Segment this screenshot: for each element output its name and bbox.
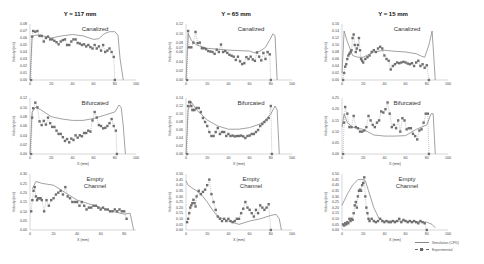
svg-text:0.14: 0.14 xyxy=(332,29,339,33)
svg-text:80: 80 xyxy=(425,156,429,160)
svg-text:40: 40 xyxy=(226,156,230,160)
svg-text:0.05: 0.05 xyxy=(332,141,339,145)
svg-text:0.00: 0.00 xyxy=(20,78,27,82)
svg-text:0: 0 xyxy=(29,82,31,86)
svg-text:20: 20 xyxy=(52,232,56,236)
svg-text:60: 60 xyxy=(248,156,252,160)
svg-text:0.10: 0.10 xyxy=(176,32,183,36)
svg-text:0.50: 0.50 xyxy=(332,172,339,176)
legend-simulation-label: Simulation (CFD) xyxy=(432,241,459,245)
svg-text:0: 0 xyxy=(341,82,343,86)
svg-text:Bifurcated: Bifurcated xyxy=(393,100,420,106)
svg-text:Channel: Channel xyxy=(240,183,262,189)
chart-panel-r1-c0: 0.000.020.040.060.080.100.12020406080100… xyxy=(8,92,148,176)
svg-text:40: 40 xyxy=(70,82,74,86)
svg-text:Velocity (m/s): Velocity (m/s) xyxy=(168,42,172,62)
svg-text:0.40: 0.40 xyxy=(332,183,339,187)
svg-text:0.07: 0.07 xyxy=(20,29,27,33)
svg-text:0.00: 0.00 xyxy=(20,152,27,156)
svg-text:100: 100 xyxy=(289,232,295,236)
svg-text:0.02: 0.02 xyxy=(20,64,27,68)
svg-text:100: 100 xyxy=(445,156,451,160)
svg-text:0.04: 0.04 xyxy=(332,64,339,68)
svg-text:Velocity (m/s): Velocity (m/s) xyxy=(12,116,16,136)
svg-text:40: 40 xyxy=(382,232,386,236)
svg-text:80: 80 xyxy=(425,82,429,86)
svg-text:Velocity (m/s): Velocity (m/s) xyxy=(324,42,328,62)
svg-text:0.12: 0.12 xyxy=(332,36,339,40)
legend-experimental-label: Experimental xyxy=(432,248,452,252)
svg-text:20: 20 xyxy=(49,156,53,160)
svg-text:60: 60 xyxy=(404,232,408,236)
svg-text:0.10: 0.10 xyxy=(20,210,27,214)
svg-text:0.06: 0.06 xyxy=(20,124,27,128)
svg-text:0.06: 0.06 xyxy=(20,36,27,40)
simulation-line-icon xyxy=(415,242,429,243)
svg-text:80: 80 xyxy=(122,232,126,236)
chart-panel-r0-c1: 0.000.020.040.060.070.080.100.1202040608… xyxy=(164,18,304,102)
svg-text:0.08: 0.08 xyxy=(20,22,27,26)
svg-text:0.14: 0.14 xyxy=(176,96,183,100)
svg-text:60: 60 xyxy=(99,232,103,236)
svg-text:40: 40 xyxy=(226,82,230,86)
chart-panel-r2-c1: 0.000.050.100.150.200.250.300.350.400.45… xyxy=(164,168,304,252)
svg-text:0.10: 0.10 xyxy=(332,130,339,134)
svg-text:0: 0 xyxy=(29,156,31,160)
svg-text:0.00: 0.00 xyxy=(176,152,183,156)
svg-text:0.06: 0.06 xyxy=(176,50,183,54)
svg-text:0.00: 0.00 xyxy=(332,78,339,82)
svg-text:40: 40 xyxy=(226,232,230,236)
svg-text:0.03: 0.03 xyxy=(20,57,27,61)
svg-text:100: 100 xyxy=(133,156,139,160)
svg-text:0.10: 0.10 xyxy=(176,112,183,116)
svg-text:Canalized: Canalized xyxy=(394,26,421,32)
svg-text:100: 100 xyxy=(133,82,139,86)
svg-text:0.01: 0.01 xyxy=(20,71,27,75)
svg-text:20: 20 xyxy=(361,156,365,160)
svg-text:80: 80 xyxy=(113,82,117,86)
svg-text:20: 20 xyxy=(205,232,209,236)
svg-text:Canalized: Canalized xyxy=(82,26,109,32)
svg-text:0.00: 0.00 xyxy=(176,228,183,232)
svg-text:0.20: 0.20 xyxy=(176,206,183,210)
svg-text:20: 20 xyxy=(361,232,365,236)
svg-text:Velocity (m/s): Velocity (m/s) xyxy=(12,42,16,62)
svg-text:0.04: 0.04 xyxy=(20,134,27,138)
svg-text:0.02: 0.02 xyxy=(176,144,183,148)
svg-text:0.10: 0.10 xyxy=(332,217,339,221)
svg-text:0.25: 0.25 xyxy=(20,182,27,186)
svg-text:0.04: 0.04 xyxy=(20,50,27,54)
svg-text:Bifurcated: Bifurcated xyxy=(81,100,108,106)
svg-text:0.30: 0.30 xyxy=(20,172,27,176)
svg-text:0.07: 0.07 xyxy=(176,46,183,50)
svg-text:60: 60 xyxy=(404,82,408,86)
svg-text:0.40: 0.40 xyxy=(176,183,183,187)
svg-text:40: 40 xyxy=(70,156,74,160)
svg-text:0.15: 0.15 xyxy=(332,211,339,215)
svg-text:0.02: 0.02 xyxy=(332,71,339,75)
col-title-y15: Y = 15 mm xyxy=(333,11,453,17)
svg-text:0: 0 xyxy=(185,82,187,86)
col-title-y65: Y = 65 mm xyxy=(176,11,296,17)
svg-text:Bifurcated: Bifurcated xyxy=(237,100,264,106)
svg-text:40: 40 xyxy=(382,156,386,160)
svg-text:0.00: 0.00 xyxy=(176,78,183,82)
svg-text:100: 100 xyxy=(445,232,451,236)
svg-text:0: 0 xyxy=(29,232,31,236)
svg-text:0.00: 0.00 xyxy=(332,228,339,232)
svg-text:Velocity (m/s): Velocity (m/s) xyxy=(324,192,328,212)
svg-text:0.45: 0.45 xyxy=(332,178,339,182)
svg-text:0.15: 0.15 xyxy=(176,211,183,215)
svg-text:100: 100 xyxy=(289,82,295,86)
svg-text:0.08: 0.08 xyxy=(332,50,339,54)
svg-text:80: 80 xyxy=(113,156,117,160)
legend-simulation: Simulation (CFD) xyxy=(415,239,459,246)
svg-text:0.25: 0.25 xyxy=(332,96,339,100)
svg-text:0.30: 0.30 xyxy=(332,195,339,199)
svg-text:0.02: 0.02 xyxy=(176,69,183,73)
svg-text:Channel: Channel xyxy=(84,183,106,189)
svg-text:0.50: 0.50 xyxy=(176,172,183,176)
svg-text:Empty: Empty xyxy=(242,176,259,182)
svg-text:0.20: 0.20 xyxy=(332,206,339,210)
chart-panel-r2-c0: 0.000.050.100.150.200.250.30020406080Vel… xyxy=(8,168,148,252)
